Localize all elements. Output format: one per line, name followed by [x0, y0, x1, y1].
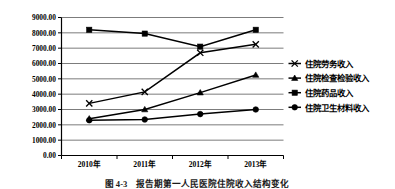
- figure-caption: 图 4-3 报告期第一人民医院住院收入结构变化: [105, 178, 290, 189]
- x-axis-tick-label: 2010年: [78, 159, 101, 169]
- data-point-square: [142, 31, 147, 36]
- y-axis-tick-label: 7000.00: [32, 44, 56, 53]
- data-point-square: [253, 27, 258, 32]
- legend-marker-square: [292, 90, 297, 95]
- figure-container: 9000.008000.007000.006000.005000.004000.…: [0, 0, 395, 188]
- legend-label: 住院卫生材料收入: [305, 103, 370, 113]
- y-axis-tick-label: 2000.00: [32, 121, 56, 130]
- legend-label: 住院检查检验收入: [305, 73, 370, 83]
- y-axis-tick-label: 9000.00: [32, 13, 56, 22]
- y-axis-tick-label: 1000.00: [32, 136, 56, 145]
- legend-marker-circle: [292, 105, 298, 111]
- x-axis-tick-label: 2013年: [244, 159, 267, 169]
- y-axis-tick-label: 6000.00: [32, 59, 56, 68]
- x-axis-tick-label: 2012年: [189, 159, 212, 169]
- legend-label: 住院药品收入: [305, 88, 354, 98]
- data-point-circle: [253, 107, 259, 113]
- income-structure-line-chart: 9000.008000.007000.006000.005000.004000.…: [0, 0, 395, 188]
- y-axis-tick-label: 8000.00: [32, 29, 56, 38]
- y-axis-tick-label: 5000.00: [32, 75, 56, 84]
- data-point-circle: [197, 111, 203, 117]
- data-point-circle: [142, 117, 148, 123]
- x-axis-tick-label: 2011年: [133, 159, 156, 169]
- data-point-circle: [86, 117, 92, 123]
- data-point-square: [198, 44, 203, 49]
- y-axis-tick-label: 3000.00: [32, 105, 56, 114]
- data-point-square: [87, 27, 92, 32]
- y-axis-tick-label: 4000.00: [32, 90, 56, 99]
- y-axis-tick-label: 0.00: [43, 151, 56, 160]
- legend-label: 住院劳务收入: [305, 59, 354, 69]
